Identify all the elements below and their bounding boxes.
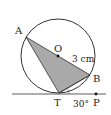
label-angle: 30° bbox=[73, 99, 89, 109]
label-radius: 3 cm bbox=[72, 54, 95, 64]
label-P: P bbox=[93, 97, 100, 108]
circle-tangent-diagram: A O 3 cm B T 30° P bbox=[0, 0, 111, 115]
label-O: O bbox=[54, 43, 62, 54]
label-T: T bbox=[54, 97, 61, 108]
point-P bbox=[95, 93, 98, 96]
point-O bbox=[57, 55, 60, 58]
label-B: B bbox=[93, 73, 100, 84]
label-A: A bbox=[14, 25, 23, 36]
